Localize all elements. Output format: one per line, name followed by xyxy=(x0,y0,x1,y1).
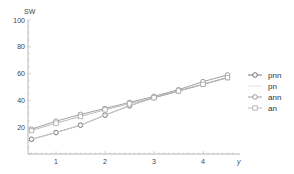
legend-label: an xyxy=(268,104,277,113)
y-tick-label: 100 xyxy=(13,17,25,24)
x-tick-label: 3 xyxy=(152,158,156,165)
x-axis-title: y xyxy=(236,158,241,166)
legend-item-pn: pn xyxy=(248,82,277,91)
square-marker xyxy=(201,82,205,86)
square-marker xyxy=(78,114,82,118)
square-marker xyxy=(54,121,58,125)
legend: pnnpnannan xyxy=(248,71,281,113)
square-marker xyxy=(253,106,257,110)
series-group xyxy=(29,73,230,142)
square-marker xyxy=(127,102,131,106)
x-tick-label: 1 xyxy=(54,158,58,165)
x-tick-label: 2 xyxy=(103,158,107,165)
square-marker xyxy=(103,108,107,112)
legend-label: pn xyxy=(268,82,277,91)
axes: 123420406080100SWy xyxy=(13,8,241,166)
y-tick-label: 60 xyxy=(17,70,25,77)
legend-item-ann: ann xyxy=(248,93,281,102)
y-tick-label: 80 xyxy=(17,43,25,50)
square-marker xyxy=(29,128,33,132)
y-axis-title: SW xyxy=(24,8,36,15)
circle-marker xyxy=(253,95,258,100)
square-marker xyxy=(225,75,229,79)
legend-item-pnn: pnn xyxy=(248,71,281,80)
legend-item-an: an xyxy=(248,104,277,113)
x-tick-label: 4 xyxy=(201,158,205,165)
square-marker xyxy=(176,89,180,93)
legend-label: pnn xyxy=(268,71,281,80)
line-chart: 123420406080100SWy pnnpnannan xyxy=(0,0,294,174)
circle-marker xyxy=(253,73,258,78)
y-tick-label: 20 xyxy=(17,124,25,131)
square-marker xyxy=(152,96,156,100)
series-an xyxy=(29,75,229,132)
y-tick-label: 40 xyxy=(17,97,25,104)
legend-label: ann xyxy=(268,93,281,102)
